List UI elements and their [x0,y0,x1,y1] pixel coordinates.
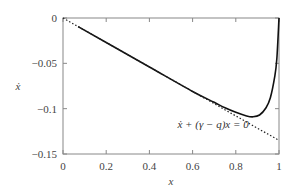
solution-curve [78,18,279,117]
x-tick-label: 0.2 [99,160,113,172]
chart: 00.20.40.60.810−0.05−0.1−0.15xẋẋ + (γ − … [0,0,294,196]
y-tick-label: −0.05 [32,57,58,69]
y-axis-label: ẋ [15,80,21,92]
x-tick-label: 1 [276,160,282,172]
x-tick-label: 0.8 [229,160,243,172]
equation-annotation: ẋ + (γ − q)x = 0 [176,118,249,131]
x-tick-label: 0.4 [143,160,157,172]
y-tick-label: −0.1 [37,103,57,115]
x-tick-label: 0 [60,160,66,172]
plot-area: 00.20.40.60.810−0.05−0.1−0.15xẋẋ + (γ − … [15,12,282,187]
x-axis-label: x [168,175,174,187]
y-tick-label: 0 [52,12,58,24]
y-tick-label: −0.15 [32,148,58,160]
x-tick-label: 0.6 [186,160,200,172]
axes-frame [63,18,279,154]
